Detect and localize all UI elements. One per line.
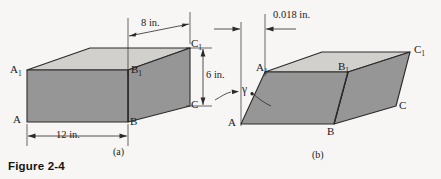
arrowhead-b-shear-left (233, 27, 241, 32)
arrowhead-a-height-bottom (201, 98, 206, 106)
vertex-label-c1-panel-b: C1 (414, 44, 425, 58)
figure-drawing-canvas (0, 0, 441, 179)
vertex-label-b-panel-a: B (130, 116, 137, 127)
vertex-label-b1-panel-b: B1 (338, 61, 349, 75)
dimension-label-6in: 6 in. (206, 70, 225, 81)
panel-a-block (27, 48, 190, 122)
arrowhead-a-width-right (120, 134, 128, 139)
block-b-front-face (241, 72, 348, 124)
gamma-arc-dot (250, 92, 253, 95)
vertex-label-c-panel-b: C (399, 100, 406, 111)
arrowhead-a-width-left (28, 134, 36, 139)
angle-label-gamma: γ (242, 84, 247, 96)
block-a-front-face (27, 70, 128, 122)
arrowhead-b-shear-right (266, 27, 274, 32)
vertex-label-a-panel-a: A (13, 114, 21, 125)
dimension-label-8in: 8 in. (141, 18, 160, 29)
figure-caption: Figure 2-4 (8, 160, 65, 172)
vertex-label-c-panel-a: C (191, 99, 198, 110)
arrowhead-a-depth-left (129, 32, 137, 36)
dimension-label-12in: 12 in. (56, 130, 80, 141)
arrowhead-a-depth-right (182, 23, 189, 27)
vertex-label-a-panel-b: A (228, 117, 236, 128)
vertex-label-b1-panel-a: B1 (131, 64, 142, 78)
vertex-label-b-panel-b: B (327, 126, 334, 137)
dimension-label-0018in: 0.018 in. (273, 10, 310, 21)
figure-2-4: A1 B1 C1 A B C 8 in. 6 in. 12 in. (a) A1… (0, 0, 441, 179)
gamma-leader-line (215, 92, 231, 100)
panel-sublabel-a: (a) (113, 147, 124, 157)
vertex-label-a1-panel-b: A1 (256, 62, 268, 76)
vertex-label-c1-panel-a: C1 (191, 38, 202, 52)
vertex-label-a1-panel-a: A1 (10, 64, 22, 78)
gamma-leader-arrowhead (232, 89, 239, 94)
panel-sublabel-b: (b) (312, 150, 324, 160)
